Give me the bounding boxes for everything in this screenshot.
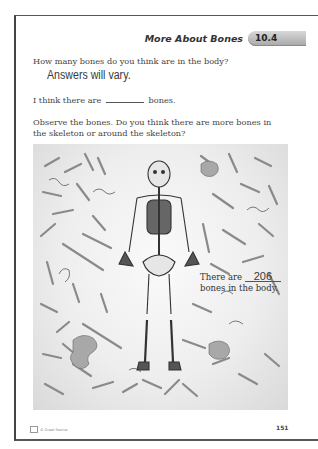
count-label-after: bones in the body.: [200, 283, 281, 294]
count-label-before: There are: [200, 272, 242, 282]
question-2-line-1: Observe the bones. Do you think there ar…: [33, 117, 271, 128]
question-1-prompt: How many bones do you think are in the b…: [33, 56, 228, 67]
fill-in-before: I think there are: [33, 95, 101, 105]
lesson-number-badge: 10.4: [248, 31, 306, 46]
fill-in-after: bones.: [149, 95, 176, 105]
page-number: 151: [276, 424, 289, 431]
page-header: More About Bones 10.4: [145, 31, 306, 46]
publisher-logo-icon: [30, 426, 38, 433]
copyright-footer: © Great Source: [30, 426, 68, 433]
handwritten-answer: Answers will vary.: [47, 68, 131, 82]
copyright-text: © Great Source: [40, 428, 68, 432]
page-title: More About Bones: [145, 33, 243, 44]
question-2-line-2: the skeleton or around the skeleton?: [33, 128, 186, 139]
bone-count-value: 206: [245, 271, 281, 282]
bone-count-statement: There are 206 bones in the body.: [200, 271, 281, 294]
answer-blank[interactable]: [106, 102, 144, 103]
fill-in-sentence: I think there are bones.: [33, 95, 176, 106]
